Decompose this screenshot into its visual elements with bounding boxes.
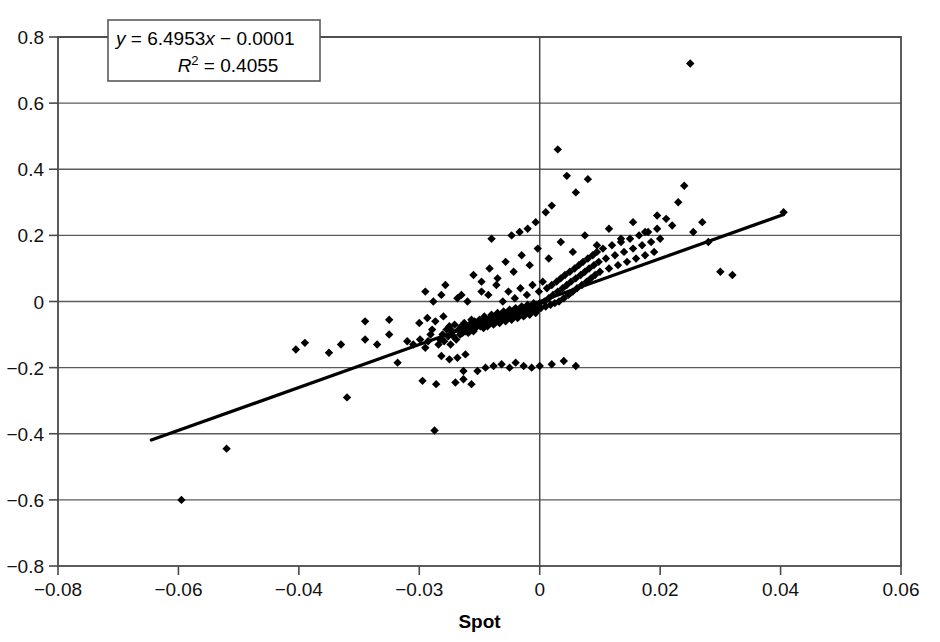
scatter-point [534,244,542,252]
scatter-point [632,254,640,262]
y-tick-label: −0.2 [6,358,44,379]
scatter-point [581,231,589,239]
scatter-point [509,268,517,276]
scatter-point [716,268,724,276]
scatter-point [572,362,580,370]
scatter-point [343,393,351,401]
scatter-point [620,248,628,256]
scatter-point [523,225,531,233]
scatter-point [608,241,616,249]
scatter-point [361,317,369,325]
scatter-point [467,380,475,388]
scatter-point [686,59,694,67]
scatter-point [605,225,613,233]
scatter-point [525,261,533,269]
scatter-point [629,244,637,252]
scatter-point [614,261,622,269]
scatter-point [548,201,556,209]
scatter-point [481,363,489,371]
scatter-point [385,315,393,323]
scatter-point [507,231,515,239]
x-tick-label: 0 [534,579,545,600]
scatter-point [484,291,492,299]
scatter-point [519,362,527,370]
scatter-point [650,248,658,256]
scatter-point [418,377,426,385]
scatter-point [528,281,536,289]
scatter-point [423,314,431,322]
scatter-point [415,319,423,327]
scatter-point [504,287,512,295]
scatter-point [653,225,661,233]
regression-trendline [151,215,783,440]
scatter-point [301,339,309,347]
scatter-point [453,354,461,362]
scatter-point [572,188,580,196]
x-axis-title: Spot [458,611,501,632]
scatter-point [492,281,500,289]
scatter-point [499,297,507,305]
scatter-point [535,287,543,295]
y-tick-label: 0.8 [18,27,44,48]
scatter-point [602,254,610,262]
scatter-point [532,218,540,226]
x-tick-label: 0.04 [762,579,799,600]
scatter-point [432,380,440,388]
scatter-point [501,258,509,266]
scatter-point [728,271,736,279]
scatter-point [584,175,592,183]
scatter-point [292,345,300,353]
scatter-point [485,264,493,272]
scatter-point [439,312,447,320]
scatter-point [505,363,513,371]
scatter-point [477,277,485,285]
scatter-point [662,215,670,223]
scatter-point [527,363,535,371]
y-tick-label: −0.4 [6,424,44,445]
scatter-point [647,238,655,246]
scatter-point [545,254,553,262]
x-tick-label: −0.08 [34,579,82,600]
scatter-point [385,330,393,338]
scatter-point [516,284,524,292]
scatter-point [674,198,682,206]
scatter-point [441,281,449,289]
scatter-point [337,340,345,348]
x-tick-label: −0.04 [275,579,324,600]
scatter-point [489,362,497,370]
scatter-points-group [177,59,788,504]
scatter-point [361,335,369,343]
y-tick-label: 0 [33,292,44,313]
scatter-point [461,350,469,358]
scatter-point [373,340,381,348]
y-tick-label: 0.4 [18,159,45,180]
scatter-point [560,357,568,365]
scatter-point [463,297,471,305]
scatter-point [393,358,401,366]
scatter-point [222,444,230,452]
scatter-point [517,251,525,259]
y-tick-label: 0.2 [18,225,44,246]
scatter-point [431,317,439,325]
scatter-point [623,258,631,266]
scatter-point [653,211,661,219]
scatter-point [477,287,485,295]
scatter-point [325,349,333,357]
scatter-point [437,352,445,360]
scatter-point [641,251,649,259]
x-tick-label: −0.06 [154,579,202,600]
scatter-point [523,291,531,299]
scatter-point [611,251,619,259]
scatter-point [429,297,437,305]
x-tick-label: 0.02 [642,579,679,600]
scatter-point [680,182,688,190]
y-tick-label: −0.8 [6,556,44,577]
scatter-point [445,355,453,363]
scatter-point [554,145,562,153]
y-tick-label: 0.6 [18,93,44,114]
scatter-point [437,291,445,299]
scatter-point [638,241,646,249]
chart-figure: 0.80.60.40.20−0.2−0.4−0.6−0.8−0.08−0.06−… [0,0,940,642]
scatter-point [459,375,467,383]
scatter-point [668,221,676,229]
